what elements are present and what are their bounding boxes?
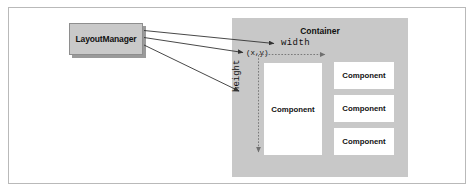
layout-manager-label: LayoutManager bbox=[76, 34, 137, 44]
component-main: Component bbox=[264, 63, 322, 155]
component-stacked-3: Component bbox=[334, 128, 394, 155]
component-stacked-2: Component bbox=[334, 95, 394, 122]
container-title: Container bbox=[232, 26, 408, 36]
component-stacked-2-label: Component bbox=[342, 104, 385, 113]
component-main-label: Component bbox=[271, 105, 314, 114]
component-stacked-1: Component bbox=[334, 62, 394, 89]
origin-coordinate-label: (x,y) bbox=[246, 49, 269, 57]
width-label: width bbox=[281, 38, 310, 48]
component-stacked-3-label: Component bbox=[342, 137, 385, 146]
height-label: height bbox=[232, 60, 242, 92]
layout-manager-box: LayoutManager bbox=[69, 23, 143, 55]
figure-canvas: Container Component Component Component … bbox=[0, 0, 475, 196]
component-stacked-1-label: Component bbox=[342, 71, 385, 80]
